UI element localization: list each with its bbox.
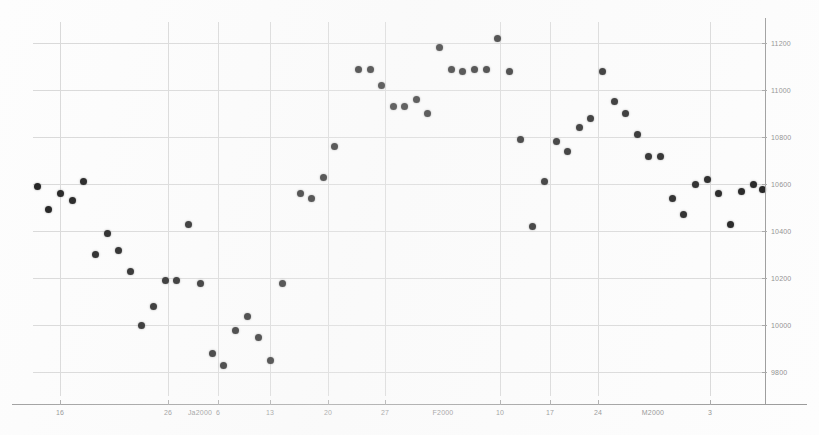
y-tick-mark (762, 43, 767, 44)
data-point (138, 322, 145, 329)
data-point (471, 66, 478, 73)
data-point (57, 190, 64, 197)
data-point (599, 68, 606, 75)
x-axis-line (12, 404, 807, 405)
y-tick-mark (762, 372, 767, 373)
data-point (185, 221, 192, 228)
x-axis-tick-label: 24 (594, 409, 602, 416)
data-point (692, 181, 699, 188)
gridline-vertical (60, 22, 61, 396)
x-axis-month-label: M2000 (642, 409, 664, 416)
x-axis-tick-label: 3 (708, 409, 712, 416)
data-point (162, 277, 169, 284)
x-tick-mark (500, 400, 501, 405)
y-axis-tick-label: 9800 (771, 369, 787, 376)
data-point (587, 115, 594, 122)
data-point (209, 350, 216, 357)
data-point (738, 188, 745, 195)
data-point (413, 96, 420, 103)
data-point (127, 268, 134, 275)
data-point (220, 362, 227, 369)
data-point (576, 124, 583, 131)
data-point (622, 110, 629, 117)
y-axis-tick-label: 10000 (771, 322, 791, 329)
y-axis-line (765, 18, 766, 404)
data-point (355, 66, 362, 73)
x-axis-tick-label: 17 (546, 409, 554, 416)
gridline-horizontal (33, 43, 765, 44)
gridline-vertical (710, 22, 711, 396)
gridline-vertical (385, 22, 386, 396)
data-point (680, 211, 687, 218)
data-point (267, 357, 274, 364)
data-point (657, 153, 664, 160)
x-axis-tick-label: 27 (381, 409, 389, 416)
x-tick-mark (550, 400, 551, 405)
data-point (197, 280, 204, 287)
data-point (483, 66, 490, 73)
gridline-horizontal (33, 372, 765, 373)
scatter-chart: 1120011000108001060010400102001000098001… (0, 0, 819, 435)
data-point (390, 103, 397, 110)
y-tick-mark (762, 278, 767, 279)
data-point (244, 313, 251, 320)
data-point (279, 280, 286, 287)
data-point (80, 178, 87, 185)
y-axis-tick-label: 10600 (771, 181, 791, 188)
data-point (297, 190, 304, 197)
plot-area (33, 22, 765, 396)
x-tick-mark (710, 400, 711, 405)
x-tick-mark (598, 400, 599, 405)
y-tick-mark (762, 325, 767, 326)
data-point (424, 110, 431, 117)
data-point (173, 277, 180, 284)
data-point (704, 176, 711, 183)
gridline-horizontal (33, 231, 765, 232)
data-point (494, 35, 501, 42)
data-point (459, 68, 466, 75)
x-axis-tick-label: 20 (324, 409, 332, 416)
gridline-vertical (218, 22, 219, 396)
data-point (378, 82, 385, 89)
x-tick-mark (270, 400, 271, 405)
gridline-horizontal (33, 137, 765, 138)
y-axis-tick-label: 11000 (771, 87, 791, 94)
data-point (715, 190, 722, 197)
x-tick-mark (218, 400, 219, 405)
data-point (115, 247, 122, 254)
gridline-horizontal (33, 184, 765, 185)
gridline-vertical (500, 22, 501, 396)
x-axis-month-label: Ja2000 (188, 409, 212, 416)
y-axis-tick-label: 11200 (771, 40, 791, 47)
data-point (517, 136, 524, 143)
y-tick-mark (762, 231, 767, 232)
x-tick-mark (60, 400, 61, 405)
x-axis-tick-label: 6 (216, 409, 220, 416)
gridline-vertical (270, 22, 271, 396)
y-axis-tick-label: 10400 (771, 228, 791, 235)
data-point (669, 195, 676, 202)
data-point (541, 178, 548, 185)
data-point (150, 303, 157, 310)
y-tick-mark (762, 184, 767, 185)
y-tick-mark (762, 137, 767, 138)
data-point (750, 181, 757, 188)
x-tick-mark (385, 400, 386, 405)
data-point (331, 143, 338, 150)
x-axis-month-label: F2000 (433, 409, 454, 416)
gridline-vertical (168, 22, 169, 396)
data-point (645, 153, 652, 160)
data-point (232, 327, 239, 334)
y-axis-tick-label: 10800 (771, 134, 791, 141)
x-axis-tick-label: 26 (164, 409, 172, 416)
y-axis-tick-label: 10200 (771, 275, 791, 282)
data-point (320, 174, 327, 181)
gridline-horizontal (33, 90, 765, 91)
x-tick-mark (328, 400, 329, 405)
data-point (448, 66, 455, 73)
data-point (634, 131, 641, 138)
data-point (553, 138, 560, 145)
data-point (69, 197, 76, 204)
gridline-horizontal (33, 278, 765, 279)
x-axis-tick-label: 13 (266, 409, 274, 416)
